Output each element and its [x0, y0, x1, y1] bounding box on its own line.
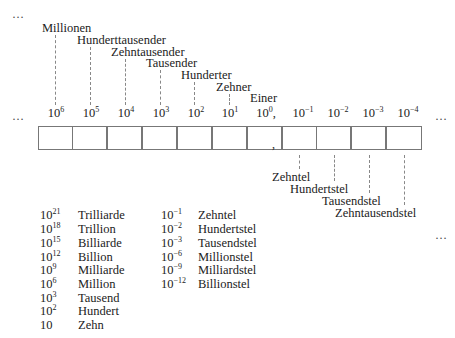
power-cell: 10−2	[161, 223, 182, 236]
digit-box-1e3	[142, 126, 177, 150]
name-cell: Billiarde	[78, 237, 122, 250]
leader-line-zehner	[229, 94, 230, 105]
power-cell: 1021	[40, 209, 61, 222]
digit-box-1e5	[72, 126, 107, 150]
power-cell: 109	[40, 264, 57, 277]
name-cell: Million	[78, 278, 116, 291]
name-cell: Tausend	[78, 292, 119, 305]
exponent-3: 103	[141, 107, 181, 120]
name-cell: Billion	[78, 251, 113, 264]
decimal-comma: ,	[272, 138, 275, 150]
exponent-minus-3: 10−3	[353, 107, 393, 120]
leader-line-hunderttausender	[90, 47, 91, 105]
exponent-0: 100,	[246, 107, 286, 120]
leader-line-tausender	[160, 70, 161, 105]
label-zehner: Zehner	[216, 81, 251, 94]
digit-box-1e4	[107, 126, 142, 150]
digit-box-1e-2	[316, 126, 351, 150]
exponent-4: 104	[106, 107, 146, 120]
name-cell: Milliardstel	[198, 264, 256, 277]
name-cell: Zehntel	[198, 209, 236, 222]
exponent-minus-2: 10−2	[318, 107, 358, 120]
leader-line-zehntel	[299, 155, 300, 169]
power-cell: 10−1	[161, 209, 182, 222]
exponent-1: 101	[210, 107, 250, 120]
digit-box-1e6	[38, 126, 73, 150]
ellipsis-row-right: …	[435, 110, 448, 122]
exponent-minus-4: 10−4	[388, 107, 428, 120]
name-cell: Zehn	[78, 319, 104, 332]
digit-box-1e2	[177, 126, 212, 150]
power-cell: 102	[40, 305, 57, 318]
name-cell: Hundert	[78, 305, 119, 318]
name-cell: Trillion	[78, 223, 116, 236]
leader-line-zehntausendstel	[404, 155, 405, 205]
name-cell: Trilliarde	[78, 209, 125, 222]
power-cell: 1015	[40, 237, 61, 250]
name-cell: Tausendstel	[198, 237, 257, 250]
digit-box-1e-4	[386, 126, 422, 150]
digit-box-1e-3	[351, 126, 386, 150]
leader-line-millionen	[55, 35, 56, 105]
label-einer: Einer	[250, 92, 277, 105]
power-cell: 10	[40, 319, 53, 332]
leader-line-zehntausender	[125, 59, 126, 105]
power-cell: 10−9	[161, 264, 182, 277]
power-cell: 106	[40, 278, 57, 291]
leader-line-hundertstel	[334, 155, 335, 181]
power-cell: 1012	[40, 251, 61, 264]
exponent-minus-1: 10−1	[283, 107, 323, 120]
exponent-6: 106	[36, 107, 76, 120]
name-cell: Billionstel	[198, 278, 250, 291]
digit-box-1e1	[212, 126, 247, 150]
ellipsis-top-left: …	[12, 8, 25, 20]
name-cell: Hundertstel	[198, 223, 256, 236]
leader-line-hunderter	[194, 82, 195, 105]
digit-box-1e0	[247, 126, 282, 150]
name-cell: Millionstel	[198, 251, 253, 264]
exponent-5: 105	[71, 107, 111, 120]
label-zehntausendstel: Zehntausendstel	[335, 207, 416, 220]
name-cell: Milliarde	[78, 264, 125, 277]
ellipsis-right-mid: …	[435, 229, 448, 241]
digit-box-1e-1	[282, 126, 317, 150]
ellipsis-row-left: …	[12, 110, 25, 122]
power-cell: 1018	[40, 223, 61, 236]
power-cell: 10−12	[161, 278, 186, 291]
power-cell: 10−3	[161, 237, 182, 250]
leader-line-tausendstel	[369, 155, 370, 193]
